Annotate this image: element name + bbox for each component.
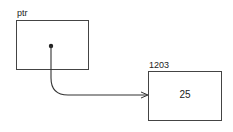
pointer-arrow [0,0,233,132]
